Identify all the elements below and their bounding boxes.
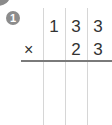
problem-number-badge: 1 (6, 11, 20, 25)
digit-bottom-ones: 3 (87, 40, 109, 60)
digit-top-ones: 3 (87, 17, 109, 37)
digit-top-tens: 3 (65, 17, 87, 37)
corner-decoration (0, 0, 10, 6)
digit-top-hundreds: 1 (43, 17, 65, 37)
multiply-operator: × (24, 40, 33, 60)
digit-bottom-tens: 2 (65, 40, 87, 60)
result-line (21, 60, 112, 62)
